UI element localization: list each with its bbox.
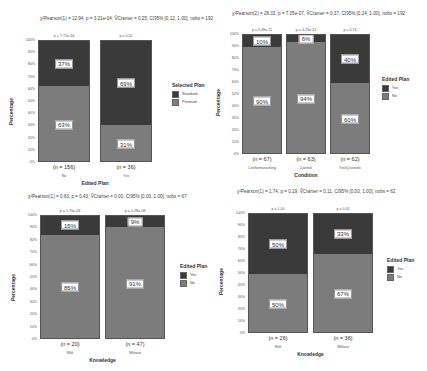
y-tick-label: 0% (17, 160, 35, 164)
y-tick-label: 30% (19, 300, 37, 304)
y-tick-label: 90% (221, 44, 239, 48)
percent-label-top: 50% (269, 240, 287, 249)
legend-item: Yes (382, 84, 409, 92)
chart-panel-condition: χ²Pearson(2) = 28.33, p = 7.05e-07, V̂Cr… (210, 0, 425, 186)
legend-label: No (190, 281, 195, 285)
chart-legend: Edited PlanYesNo (387, 257, 414, 281)
chart-legend: Edited PlanYesNo (382, 76, 409, 100)
legend-item: Standard (172, 90, 205, 98)
stacked-bar: 37%63% (38, 40, 90, 162)
percent-label-bottom: 91% (126, 279, 144, 288)
legend-item: No (382, 92, 409, 100)
x-category-label: Yes (100, 174, 152, 178)
percent-label-top: 15% (61, 221, 79, 230)
y-tick-label: 40% (17, 111, 35, 115)
y-tick-label: 50% (17, 99, 35, 103)
stacked-bar: 9%91% (105, 215, 165, 339)
percent-label-top: 37% (55, 59, 73, 68)
x-category-label: No (38, 174, 90, 178)
y-tick-label: 20% (227, 307, 245, 311)
y-tick-label: 0% (221, 152, 239, 156)
stacked-bar: 69%31% (100, 40, 152, 162)
stacked-bar: 40%60% (330, 34, 370, 154)
legend-swatch (172, 91, 179, 98)
chart-panel-selected-plan: χ²Pearson(1) = 12.94, p = 3.21e-04, V̂Cr… (0, 0, 215, 186)
x-category-label: Without (105, 351, 165, 355)
y-tick-label: 70% (221, 68, 239, 72)
percent-label-top: 40% (341, 55, 359, 64)
percent-label-bottom: 67% (334, 289, 352, 298)
n-count-label: (n = 67) (242, 156, 282, 162)
percent-label-bottom: 85% (61, 283, 79, 292)
n-count-label: (n = 26) (248, 335, 308, 341)
x-category-label: Without (313, 345, 373, 349)
legend-label: No (392, 94, 397, 98)
stacked-bar: 50%50% (248, 213, 308, 333)
legend-title: Edited Plan (387, 257, 414, 263)
y-tick-label: 20% (17, 136, 35, 140)
p-value-label: p = 9.48e-11 (242, 28, 282, 32)
y-tick-label: 90% (19, 225, 37, 229)
p-value-label: p = 4.23e-12 (286, 28, 326, 32)
y-tick-label: 70% (227, 247, 245, 251)
y-tick-label: 100% (227, 211, 245, 215)
p-value-label: p = 1.28e-08 (105, 209, 165, 213)
stacked-bar: 10%90% (242, 34, 282, 154)
legend-label: Yes (190, 273, 196, 277)
y-tick-label: 10% (19, 325, 37, 329)
y-tick-label: 70% (19, 250, 37, 254)
y-tick-label: 60% (227, 259, 245, 263)
percent-label-top: 10% (253, 37, 271, 46)
y-tick-label: 80% (227, 235, 245, 239)
stacked-bar: 33%67% (313, 213, 373, 333)
y-tick-label: 50% (19, 275, 37, 279)
chart-panel-knowledge-a: χ²Pearson(1) = 0.63, p = 0.43, V̂Cramer … (0, 186, 215, 371)
chart-panel-knowledge-b: χ²Pearson(1) = 1.74, p = 0.19, V̂Cramer … (215, 185, 427, 371)
legend-swatch (382, 93, 389, 100)
legend-title: Edited Plan (382, 76, 409, 82)
stacked-bar: 15%85% (40, 215, 100, 339)
percent-label-top: 69% (117, 79, 135, 88)
y-axis-title: Percentage (10, 274, 16, 301)
p-value-label: p = 1.75e-03 (40, 209, 100, 213)
n-count-label: (n = 47) (105, 341, 165, 347)
p-value-label: p = 0.05 (313, 207, 373, 211)
percent-label-top: 6% (299, 34, 314, 43)
legend-label: Premium (182, 100, 197, 104)
legend-swatch (172, 99, 179, 106)
y-tick-label: 90% (17, 50, 35, 54)
legend-swatch (387, 266, 394, 273)
p-value-label: p = 1.00 (248, 207, 308, 211)
y-tick-label: 40% (227, 283, 245, 287)
chart-subtitle: χ²Pearson(1) = 12.94, p = 3.21e-04, V̂Cr… (40, 16, 213, 21)
y-tick-label: 40% (19, 287, 37, 291)
x-axis-title: Knowledge (40, 357, 165, 363)
legend-title: Selected Plan (172, 82, 205, 88)
percent-label-bottom: 90% (253, 97, 271, 106)
x-category-label: Conformanarning (242, 166, 282, 170)
x-category-label: With (40, 351, 100, 355)
chart-subtitle: χ²Pearson(1) = 0.63, p = 0.43, V̂Cramer … (28, 194, 187, 199)
n-count-label: (n = 36) (100, 164, 152, 170)
x-axis-title: Knowledge (248, 351, 373, 357)
y-tick-label: 30% (221, 116, 239, 120)
y-axis-title: Percentage (8, 98, 14, 125)
x-category-label: With (248, 345, 308, 349)
chart-subtitle: χ²Pearson(1) = 1.74, p = 0.19, V̂Cramer … (237, 189, 395, 194)
n-count-label: (n = 63) (286, 156, 326, 162)
x-category-label: Control (286, 166, 326, 170)
y-tick-label: 80% (19, 238, 37, 242)
y-tick-label: 90% (227, 223, 245, 227)
y-tick-label: 100% (221, 32, 239, 36)
y-tick-label: 100% (17, 38, 35, 42)
legend-item: Yes (387, 265, 414, 273)
n-count-label: (n = 36) (313, 335, 373, 341)
chart-subtitle: χ²Pearson(2) = 28.33, p = 7.05e-07, V̂Cr… (232, 11, 405, 16)
legend-swatch (180, 272, 187, 279)
legend-swatch (382, 85, 389, 92)
y-tick-label: 30% (17, 123, 35, 127)
legend-swatch (387, 274, 394, 281)
legend-title: Edited Plan (180, 263, 207, 269)
legend-swatch (180, 280, 187, 287)
y-axis-title: Percentage (218, 268, 224, 295)
